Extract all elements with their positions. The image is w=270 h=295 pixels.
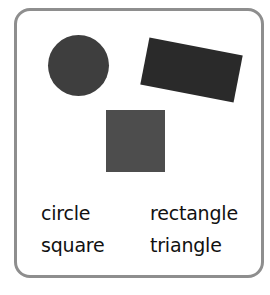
label-square: square	[41, 236, 105, 255]
label-circle: circle	[41, 204, 90, 223]
label-triangle: triangle	[150, 236, 222, 255]
circle-shape	[48, 35, 109, 96]
square-shape	[106, 110, 165, 172]
label-rectangle: rectangle	[150, 204, 238, 223]
